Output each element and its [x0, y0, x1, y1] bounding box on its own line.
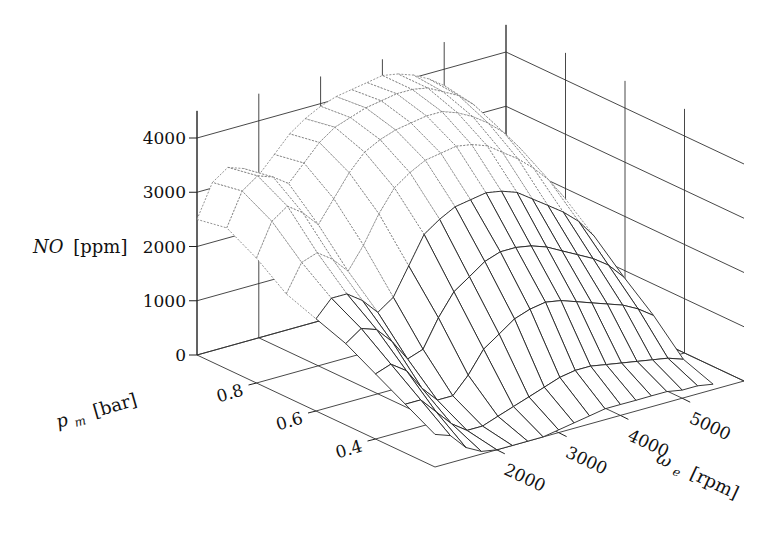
z-axis-label: NO [ppm]: [32, 236, 127, 257]
x-axis-label: ω e [rpm]: [652, 447, 743, 507]
z-tick-label: 2000: [143, 237, 186, 257]
x-tick: [682, 398, 690, 402]
y-axis-label: p m [bar]: [53, 389, 140, 436]
x-tick-label: 3000: [563, 442, 611, 478]
y-tick-label: 0.4: [333, 436, 365, 463]
y-tick: [249, 383, 257, 385]
x-tick: [620, 415, 628, 419]
x-tick: [559, 433, 567, 437]
z-tick-label: 0: [175, 345, 186, 365]
z-tick-label: 4000: [143, 128, 186, 148]
surface-plot: 010002000300040000.80.60.420003000400050…: [0, 0, 773, 533]
z-tick-label: 1000: [143, 291, 186, 311]
y-tick-label: 0.8: [214, 380, 246, 407]
z-tick-label: 3000: [143, 182, 186, 202]
y-tick-label: 0.6: [274, 408, 306, 435]
y-tick: [368, 439, 376, 441]
y-tick: [308, 411, 316, 413]
x-tick: [497, 450, 505, 454]
x-tick-label: 2000: [501, 459, 549, 495]
x-tick-label: 5000: [687, 408, 735, 444]
surface-mesh: [197, 74, 713, 451]
